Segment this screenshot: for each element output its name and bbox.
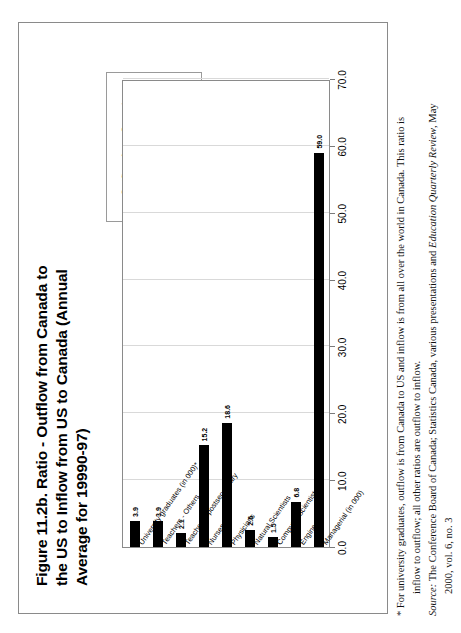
axis-tick-label: 10.0 [337,471,348,490]
bar [291,502,301,547]
axis-tick [330,213,335,214]
bar [222,423,232,547]
bar-row: 18.6 [222,79,232,547]
bar-row: 2.6 [245,79,255,547]
bar-row: 3.9 [130,79,140,547]
bar-value-label: 1.5 [270,523,277,533]
axis-tick [330,346,335,347]
footnote-rotated-container: * For university graduates, outflow is f… [392,18,458,618]
axis-tick [330,146,335,147]
axis-tick-label: 70.0 [337,70,348,89]
bar-value-label: 3.9 [154,507,161,517]
source-text-b: , May [427,103,438,128]
axis-tick [330,79,335,80]
axis-tick [330,480,335,481]
source-label: Source: [427,584,438,616]
bar-row: 1.5 [268,79,278,547]
bar [153,521,163,547]
page-title: Figure 11.2b. Ratio - Outflow from Canad… [32,256,92,586]
bar-row: 15.2 [199,79,209,547]
bar-value-label: 59.0 [316,135,323,149]
axis-tick-label: 60.0 [337,137,348,156]
bar-row: 2.1 [176,79,186,547]
bar-value-label: 18.6 [224,405,231,419]
source-line-1: Source: The Conference Board of Canada; … [425,20,441,616]
figure-rotated-container: Figure 11.2b. Ratio - Outflow from Canad… [18,22,388,614]
plot-area: 59.06.81.52.618.615.22.13.93.9 [122,80,330,548]
bar-value-label: 2.6 [247,516,254,526]
footnote-block: * For university graduates, outflow is f… [393,20,457,616]
footnote-line-1: * For university graduates, outflow is f… [393,20,409,616]
axis-tick-label: 30.0 [337,338,348,357]
bar [176,533,186,547]
bar [199,445,209,547]
axis-tick [330,547,335,548]
source-line-2: 2000, vol. 6, no. 3 [441,20,457,616]
figure-page: Figure 11.2b. Ratio - Outflow from Canad… [0,0,461,633]
bar-value-label: 3.9 [131,507,138,517]
axis-tick-label: 20.0 [337,405,348,424]
bar [245,530,255,547]
axis-tick-label: 50.0 [337,204,348,223]
footnote-line-2: inflow to outflow; all other ratios are … [409,20,425,616]
figure-content: Figure 11.2b. Ratio - Outflow from Canad… [18,22,388,614]
bar-value-label: 2.1 [177,519,184,529]
axis-tick-label: 0.0 [337,541,348,555]
bar-row: 3.9 [153,79,163,547]
bar [268,537,278,547]
bar-row: 59.0 [314,79,324,547]
value-axis: 0.010.020.030.040.050.060.070.0 [330,80,360,548]
bar-row: 6.8 [291,79,301,547]
bar-value-label: 15.2 [200,428,207,442]
bar-value-label: 6.8 [293,488,300,498]
bar [314,153,324,547]
source-journal-title: Education Quarterly Review [427,128,438,248]
axis-tick-label: 40.0 [337,271,348,290]
axis-tick [330,413,335,414]
bar [130,521,140,547]
source-text-a: The Conference Board of Canada; Statisti… [427,248,438,584]
axis-tick [330,280,335,281]
chart-bars: 59.06.81.52.618.615.22.13.93.9 [123,81,329,547]
